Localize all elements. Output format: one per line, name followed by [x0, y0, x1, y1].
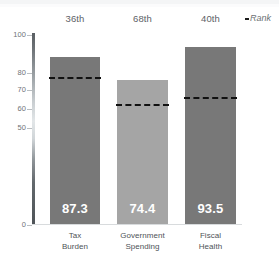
bar-value-label: 93.5	[185, 201, 236, 216]
x-axis-label-tax-burden: TaxBurden	[38, 231, 112, 252]
y-tick-mark	[27, 35, 32, 36]
y-tick-label: 100	[4, 31, 26, 39]
bar-fiscal-health[interactable]: 93.5	[185, 47, 236, 224]
bar-value-label: 87.3	[50, 201, 100, 216]
y-tick-label: 0	[4, 221, 26, 229]
x-axis-label-line2: Spending	[105, 242, 180, 253]
y-axis-spine	[32, 33, 35, 225]
bar-government-spending[interactable]: 74.4	[117, 80, 168, 224]
x-axis-label-fiscal-health: FiscalHealth	[173, 231, 248, 252]
y-tick-mark	[27, 73, 32, 74]
y-tick-mark	[27, 90, 32, 91]
y-tick-mark	[27, 225, 32, 226]
bar-tax-burden[interactable]: 87.3	[50, 57, 100, 224]
x-axis-label-line1: Government	[105, 231, 180, 242]
y-tick-label: 50	[4, 124, 26, 132]
y-tick-label: 80	[4, 69, 26, 77]
x-axis-label-line2: Health	[173, 242, 248, 253]
bar-chart-panel: 36th 68th 40th Rank 100807060500 87.374.…	[0, 0, 279, 264]
rank-reference-line	[49, 77, 101, 79]
x-axis-baseline	[32, 224, 242, 225]
y-tick-mark	[27, 128, 32, 129]
y-tick-label: 70	[4, 86, 26, 94]
x-axis-label-line2: Burden	[38, 242, 112, 253]
x-axis-label-government-spending: GovernmentSpending	[105, 231, 180, 252]
plot-area: 100807060500 87.374.493.5 TaxBurdenGover…	[0, 0, 279, 264]
y-tick-label: 60	[4, 105, 26, 113]
rank-reference-line	[184, 97, 237, 99]
bar-value-label: 74.4	[117, 201, 168, 216]
x-axis-label-line1: Fiscal	[173, 231, 248, 242]
x-axis-label-line1: Tax	[38, 231, 112, 242]
y-tick-mark	[27, 109, 32, 110]
rank-reference-line	[116, 104, 169, 106]
